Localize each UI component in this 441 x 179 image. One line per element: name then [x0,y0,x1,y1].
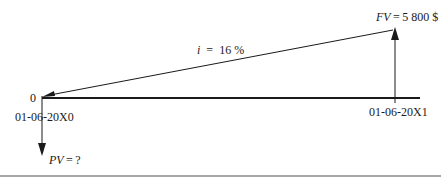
fv-var: FV [376,10,391,24]
future-value-label: FV = 5 800 $ [376,11,438,23]
fv-eq: = [393,10,400,24]
fv-arrowhead-icon [391,27,399,40]
discount-arrow-line [50,30,393,95]
pv-eq: = [66,153,73,167]
discount-arrowhead-icon [42,91,55,97]
pv-arrowhead-icon [38,143,46,156]
bottom-divider [0,175,441,177]
end-date-text: 01-06-20X1 [369,105,428,119]
pv-value: ? [75,153,80,167]
interest-rate-label: i = 16 % [197,44,244,56]
start-date-label: 01-06-20X0 [15,111,74,123]
period-zero-label: 0 [30,92,36,104]
end-date-label: 01-06-20X1 [369,106,428,118]
present-value-label: PV = ? [49,154,81,166]
interest-var: i [197,43,200,57]
period-zero-text: 0 [30,91,36,105]
start-date-text: 01-06-20X0 [15,110,74,124]
fv-value: 5 800 $ [402,10,438,24]
interest-value: 16 % [219,43,244,57]
pv-var: PV [49,153,64,167]
